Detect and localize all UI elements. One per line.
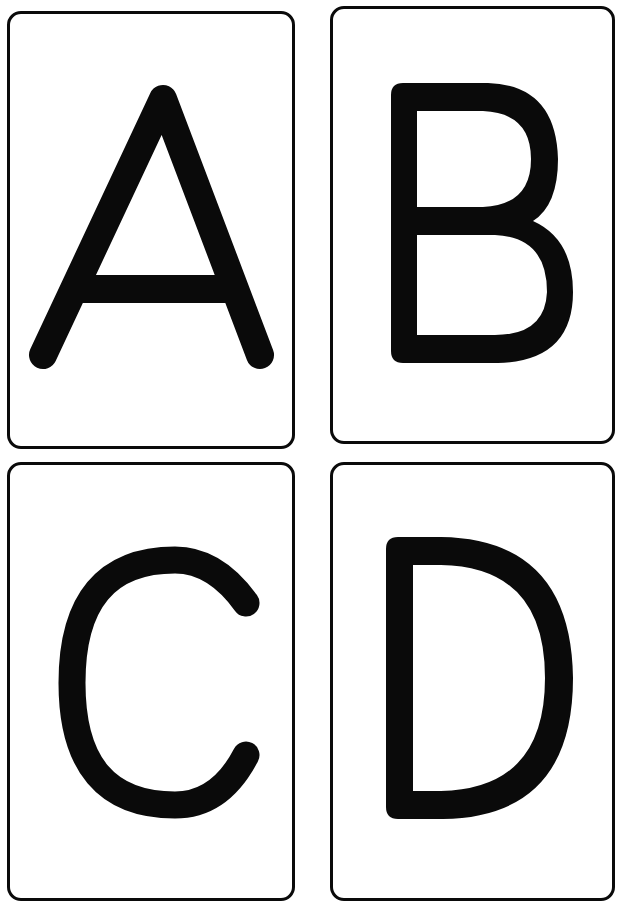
flashcard-b: B	[330, 6, 615, 444]
flashcard-d: D	[330, 462, 615, 901]
flashcard-a: A	[7, 11, 295, 449]
letter-b-glyph	[333, 9, 617, 447]
letter-c-glyph	[10, 465, 298, 904]
letter-a-glyph	[10, 14, 298, 452]
flashcard-c: C	[7, 462, 295, 901]
letter-d-glyph	[333, 465, 617, 904]
